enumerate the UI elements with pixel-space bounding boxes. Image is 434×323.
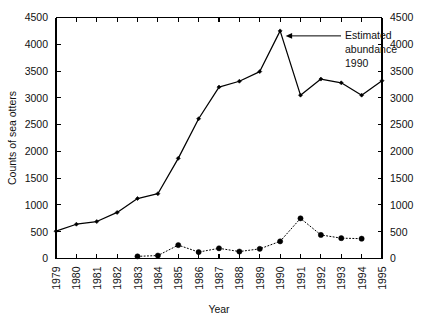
x-tick-label: 1995 xyxy=(376,266,388,290)
data-point-marker xyxy=(257,246,262,251)
y-tick-label-left: 500 xyxy=(30,226,48,238)
y-tick-label-right: 1500 xyxy=(390,172,414,184)
x-tick-label: 1984 xyxy=(152,266,164,290)
y-tick-label-left: 3000 xyxy=(25,92,49,104)
y-tick-label-left: 2500 xyxy=(25,118,49,130)
data-point-marker xyxy=(237,249,242,254)
y-tick-label-right: 2500 xyxy=(390,118,414,130)
data-point-marker xyxy=(216,246,221,251)
y-tick-label-right: 0 xyxy=(390,252,396,264)
x-tick-label: 1989 xyxy=(254,266,266,290)
y-tick-label-right: 2000 xyxy=(390,145,414,157)
y-tick-label-left: 4500 xyxy=(25,11,49,23)
sea-otter-counts-chart: 050010001500200025003000350040004500 050… xyxy=(0,0,434,323)
x-tick-label: 1987 xyxy=(213,266,225,290)
annotation-text-line: abundance xyxy=(345,43,397,55)
annotation-text-line: 1990 xyxy=(345,57,369,69)
x-axis-title: Year xyxy=(208,303,230,315)
y-tick-label-left: 2000 xyxy=(25,145,49,157)
y-tick-label-right: 500 xyxy=(390,226,408,238)
x-tick-label: 1982 xyxy=(111,266,123,290)
x-tick-label: 1985 xyxy=(172,266,184,290)
x-tick-label: 1993 xyxy=(335,266,347,290)
x-tick-label: 1983 xyxy=(132,266,144,290)
y-tick-label-left: 0 xyxy=(42,252,48,264)
x-tick-label: 1981 xyxy=(91,266,103,290)
data-point-marker xyxy=(318,232,323,237)
x-tick-label: 1990 xyxy=(274,266,286,290)
data-point-marker xyxy=(135,254,140,259)
y-tick-label-right: 3000 xyxy=(390,92,414,104)
data-point-marker xyxy=(298,216,303,221)
x-tick-label: 1988 xyxy=(233,266,245,290)
y-tick-label-right: 3500 xyxy=(390,65,414,77)
x-tick-label: 1992 xyxy=(315,266,327,290)
data-point-marker xyxy=(176,243,181,248)
y-tick-label-right: 4500 xyxy=(390,11,414,23)
y-tick-label-left: 1500 xyxy=(25,172,49,184)
y-tick-label-left: 1000 xyxy=(25,199,49,211)
y-tick-label-left: 4000 xyxy=(25,38,49,50)
x-tick-label: 1994 xyxy=(356,266,368,290)
y-tick-label-left: 3500 xyxy=(25,65,49,77)
x-tick-label: 1986 xyxy=(193,266,205,290)
x-axis-tick-labels: 1979198019811982198319841985198619871988… xyxy=(50,266,388,290)
x-tick-label: 1980 xyxy=(70,266,82,290)
data-point-marker xyxy=(155,253,160,258)
annotation-text-line: Estimated xyxy=(345,29,392,41)
y-axis-title: Counts of sea otters xyxy=(6,91,18,185)
chart-figure: 050010001500200025003000350040004500 050… xyxy=(0,0,434,323)
data-point-marker xyxy=(278,239,283,244)
x-tick-label: 1979 xyxy=(50,266,62,290)
data-point-marker xyxy=(359,236,364,241)
x-tick-label: 1991 xyxy=(295,266,307,290)
data-point-marker xyxy=(196,249,201,254)
y-tick-label-right: 1000 xyxy=(390,199,414,211)
data-point-marker xyxy=(339,236,344,241)
